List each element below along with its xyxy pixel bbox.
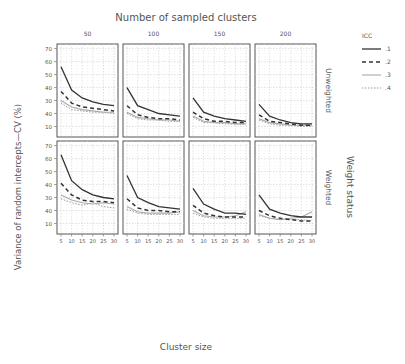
column-strip-label: 200 [280, 30, 292, 37]
x-tick-label: 10 [200, 238, 206, 244]
legend-label: .2 [385, 58, 391, 65]
x-tick-label: 20 [222, 238, 228, 244]
x-tick-label: 30 [309, 238, 315, 244]
x-tick-label: 5 [191, 238, 194, 244]
x-tick-label: 25 [232, 238, 238, 244]
x-tick-label: 20 [288, 238, 294, 244]
column-strip-label: 100 [148, 30, 160, 37]
x-tick-label: 25 [298, 238, 304, 244]
x-tick-label: 10 [134, 238, 140, 244]
y-tick-label: 10 [45, 221, 52, 227]
x-tick-label: 15 [211, 238, 217, 244]
faceted-line-chart: Number of sampled clusters Cluster size … [0, 0, 405, 364]
x-tick-label: 10 [68, 238, 74, 244]
y-tick-label: 40 [45, 208, 52, 214]
panel-unweighted-50: 1040304050607050 [45, 30, 118, 137]
column-strip-label: 50 [84, 30, 92, 37]
panel-unweighted-200: 200Unweighted [255, 30, 333, 137]
x-tick-label: 25 [166, 238, 172, 244]
x-tick-label: 20 [90, 238, 96, 244]
row-strip-label: Unweighted [324, 68, 333, 113]
x-axis-label: Cluster size [160, 342, 213, 352]
legend-label: .4 [385, 84, 391, 91]
panel-weighted-50: 1040304050607051015202530 [45, 141, 118, 244]
facet-panels: 1040304050607050100150200Unweighted10403… [45, 30, 333, 244]
x-tick-label: 30 [111, 238, 117, 244]
legend: ICC.1.2.3.4 [362, 32, 391, 91]
x-tick-label: 15 [277, 238, 283, 244]
x-tick-label: 15 [145, 238, 151, 244]
y-tick-label: 40 [45, 182, 52, 188]
x-tick-label: 10 [266, 238, 272, 244]
y-tick-label: 50 [45, 169, 52, 175]
row-facet-title: Weight status [345, 156, 355, 218]
x-tick-label: 5 [59, 238, 62, 244]
row-strip-label: Weighted [324, 170, 333, 206]
panel-unweighted-100: 100 [123, 30, 184, 137]
column-facet-title: Number of sampled clusters [115, 12, 256, 23]
x-tick-label: 30 [177, 238, 183, 244]
y-tick-label: 40 [45, 111, 52, 117]
y-axis-label: Variance of random intercepts—CV (%) [13, 104, 23, 270]
y-tick-label: 40 [45, 85, 52, 91]
legend-title: ICC [362, 32, 372, 39]
y-tick-label: 70 [45, 143, 52, 149]
legend-label: .1 [385, 45, 391, 52]
panel-weighted-150: 51015202530 [189, 141, 250, 244]
y-tick-label: 30 [45, 98, 52, 104]
x-tick-label: 15 [79, 238, 85, 244]
y-tick-label: 70 [45, 46, 52, 52]
x-tick-label: 30 [243, 238, 249, 244]
y-tick-label: 10 [45, 124, 52, 130]
y-tick-label: 30 [45, 195, 52, 201]
x-tick-label: 5 [125, 238, 128, 244]
panel-weighted-200: 51015202530Weighted [255, 141, 333, 244]
x-tick-label: 5 [257, 238, 260, 244]
x-tick-label: 20 [156, 238, 162, 244]
panel-weighted-100: 51015202530 [123, 141, 184, 244]
y-tick-label: 50 [45, 72, 52, 78]
y-tick-label: 60 [45, 59, 52, 65]
column-strip-label: 150 [214, 30, 226, 37]
x-tick-label: 25 [100, 238, 106, 244]
legend-label: .3 [385, 71, 391, 78]
y-tick-label: 60 [45, 156, 52, 162]
panel-unweighted-150: 150 [189, 30, 250, 137]
